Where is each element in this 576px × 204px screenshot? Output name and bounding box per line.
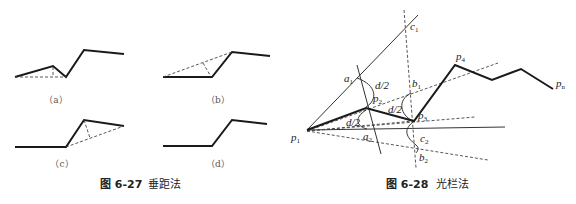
caption-title: 垂距法 (148, 177, 181, 191)
perpendicular-c (84, 120, 90, 138)
caption-figure-6-27: 图 6-27 垂距法 (100, 177, 181, 191)
caption-number: 图 6-27 (100, 178, 142, 191)
label-pn: pn (555, 77, 566, 91)
subfigure-label-b: （b） (206, 95, 230, 105)
polyline-a (15, 50, 124, 77)
polyline-c (15, 120, 124, 147)
polyline-b (163, 52, 270, 77)
subfigure-label-c: （c） (50, 159, 73, 169)
label-p3: p3 (417, 109, 428, 123)
label-c2: c2 (420, 132, 429, 146)
polyline-d (163, 120, 267, 146)
diagram-canvas: （a） （b） （c） （d） 图 6-27 垂距法 (0, 0, 576, 204)
subfigure-c: （c） (15, 120, 124, 169)
label-p4: p4 (455, 50, 466, 64)
subfigure-a: （a） (15, 50, 124, 105)
caption-figure-6-28: 图 6-28 光栏法 (386, 177, 469, 191)
label-a2: a2 (363, 130, 373, 144)
label-c1: c1 (410, 20, 419, 34)
subfigure-label-d: （d） (206, 159, 230, 169)
arc-d-half-a1 (357, 78, 374, 107)
label-p2: p2 (372, 92, 383, 106)
label-d-half-1: d/2 (375, 79, 390, 91)
dashed-p1-b1 (307, 63, 498, 131)
caption-title: 光栏法 (436, 177, 469, 191)
label-d-half-3: d/2 (346, 116, 361, 128)
label-b2: b2 (419, 151, 429, 165)
chord-c (66, 126, 124, 147)
label-d-half-2: d/2 (388, 103, 403, 115)
horizontal-line (307, 127, 505, 130)
dashed-p1-b2 (307, 131, 488, 160)
subfigure-d: （d） (163, 120, 267, 169)
subfigure-b: （b） (163, 52, 270, 105)
figure-6-28: p1 p2 p3 p4 pn a1 a2 b1 b2 c1 c2 d/2 d/2… (290, 10, 566, 168)
label-a1: a1 (344, 72, 354, 86)
perpendicular-b (203, 63, 210, 75)
caption-number: 图 6-28 (386, 178, 428, 191)
subfigure-label-a: （a） (44, 95, 67, 105)
label-p1: p1 (290, 131, 301, 145)
label-b1: b1 (412, 77, 422, 91)
